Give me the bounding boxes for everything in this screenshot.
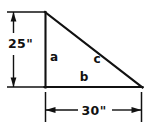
base-arrowhead-left bbox=[46, 107, 56, 113]
height-arrowhead-top bbox=[11, 12, 17, 22]
height-dimension-label: 25" bbox=[8, 36, 33, 51]
side-label-c: c bbox=[93, 52, 100, 66]
side-label-b: b bbox=[80, 70, 89, 84]
base-dimension-group: 30" bbox=[46, 92, 142, 122]
base-arrowhead-right bbox=[132, 107, 142, 113]
triangle-hypotenuse bbox=[45, 12, 143, 88]
height-dimension-group: 25" bbox=[7, 12, 46, 87]
triangle-diagram: 25" 30" a b c bbox=[0, 0, 160, 132]
side-label-a: a bbox=[50, 50, 58, 64]
base-dimension-label: 30" bbox=[81, 103, 106, 118]
triangle-outline bbox=[45, 12, 143, 88]
height-arrowhead-bottom bbox=[11, 78, 17, 88]
figure-container: 25" 30" a b c bbox=[0, 0, 160, 132]
